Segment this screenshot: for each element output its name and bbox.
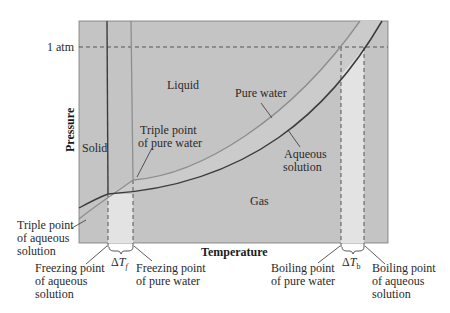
pure-water-label: Pure water	[235, 86, 287, 100]
freezing-shade	[108, 194, 133, 243]
solid-region-label: Solid	[82, 141, 107, 155]
bp-aqueous-label-1: Boiling point	[372, 261, 436, 275]
fp-pure-label-1: Freezing point	[136, 261, 206, 275]
delta-tb-label: ΔTb	[342, 255, 360, 271]
pressure-axis-label: Pressure	[63, 107, 77, 152]
fp-aqueous-label-2: of aqueous	[35, 274, 88, 288]
aqueous-label-2: solution	[283, 160, 322, 174]
bp-aqueous-label-2: of aqueous	[372, 274, 425, 288]
fp-pure-label-2: of pure water	[136, 274, 200, 288]
bp-pure-label-2: of pure water	[271, 274, 335, 288]
liquid-region-label: Liquid	[167, 78, 199, 92]
tp-aqueous-label-3: solution	[17, 244, 56, 258]
one-atm-label: 1 atm	[47, 40, 75, 54]
bp-pure-label-1: Boiling point	[271, 261, 335, 275]
delta-tf-label: ΔTf	[111, 255, 129, 271]
brace-delta-tf	[109, 247, 133, 254]
bp-aqueous-label-3: solution	[372, 287, 411, 301]
gas-region-label: Gas	[250, 194, 269, 208]
tp-pure-label-1: Triple point	[140, 123, 197, 137]
tp-aqueous-label-1: Triple point	[17, 218, 74, 232]
brace-delta-tb	[342, 247, 364, 254]
solid-liquid-line-aqueous	[107, 21, 108, 194]
temperature-axis-label: Temperature	[201, 245, 268, 259]
tp-aqueous-label-2: of aqueous	[17, 231, 70, 245]
aqueous-label-1: Aqueous	[284, 147, 327, 161]
fp-aqueous-label-1: Freezing point	[35, 261, 105, 275]
leader-fp-pure	[134, 246, 152, 261]
tp-pure-label-2: of pure water	[138, 136, 202, 150]
fp-aqueous-label-3: solution	[35, 287, 74, 301]
phase-diagram: 1 atm Pressure Temperature Solid Liquid …	[0, 0, 450, 313]
